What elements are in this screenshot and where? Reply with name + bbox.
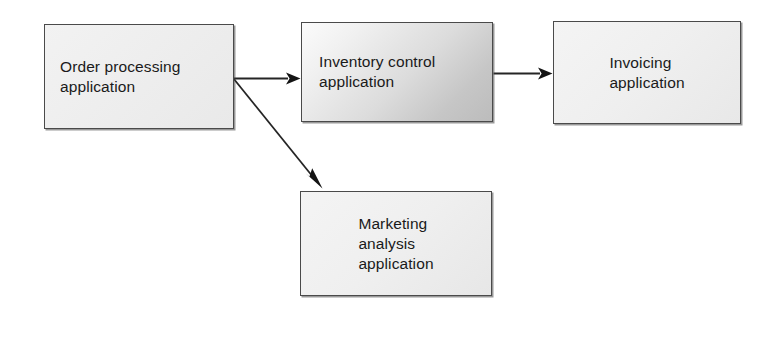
node-order-processing-application[interactable]: Order processing application	[44, 24, 234, 129]
connector-order-to-inventory	[234, 73, 301, 85]
node-marketing-analysis-application[interactable]: Marketing analysis application	[300, 191, 492, 296]
node-label: Inventory control application	[319, 52, 435, 92]
node-label: Marketing analysis application	[358, 214, 433, 274]
node-invoicing-application[interactable]: Invoicing application	[553, 21, 741, 124]
node-inventory-control-application[interactable]: Inventory control application	[301, 22, 493, 122]
connector-inventory-to-invoicing	[494, 68, 553, 80]
node-label: Order processing application	[60, 57, 180, 97]
diagram-canvas: Order processing application Inventory c…	[0, 0, 772, 340]
node-label: Invoicing application	[609, 53, 684, 93]
